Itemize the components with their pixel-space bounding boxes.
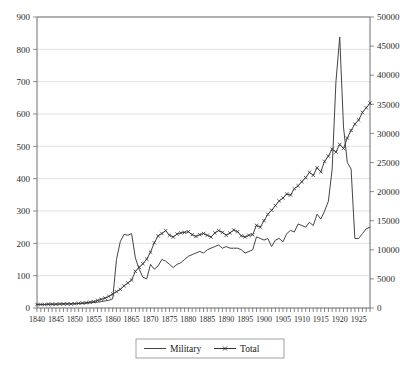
y-axis-left-tick-label: 500 [17,142,31,152]
x-axis-tick-label: 1900 [256,315,272,324]
x-axis-tick-label: 1885 [199,315,215,324]
x-axis-tick-label: 1870 [143,315,159,324]
chart-container: 0100200300400500600700800900050001000015… [0,0,419,368]
x-axis-tick-label: 1925 [351,315,367,324]
x-axis-tick-label: 1855 [86,315,102,324]
y-axis-left-tick-label: 100 [17,271,31,281]
y-axis-right-tick-label: 5000 [377,274,396,284]
y-axis-right-tick-label: 15000 [377,216,400,226]
x-axis-tick-label: 1845 [48,315,64,324]
x-axis-tick-label: 1915 [313,315,329,324]
y-axis-right-tick-label: 40000 [377,70,400,80]
y-axis-right-tick-label: 10000 [377,245,400,255]
y-axis-left-tick-label: 800 [17,45,31,55]
x-axis-tick-label: 1875 [161,315,177,324]
x-axis-tick-label: 1865 [124,315,140,324]
chart-legend: MilitaryTotal [136,339,284,358]
legend-label-military: Military [170,344,201,354]
line-chart: 0100200300400500600700800900050001000015… [0,0,419,368]
y-axis-left-tick-label: 600 [17,109,31,119]
y-axis-left-tick-label: 300 [17,206,31,216]
y-axis-right-tick-label: 0 [377,303,382,313]
y-axis-right-tick-label: 30000 [377,129,400,139]
y-axis-left-tick-label: 400 [17,174,31,184]
x-axis-tick-label: 1880 [180,315,196,324]
x-axis-tick-label: 1850 [67,315,83,324]
y-axis-left-tick-label: 0 [26,303,31,313]
y-axis-left-tick-label: 200 [17,239,31,249]
y-axis-right-tick-label: 45000 [377,41,400,51]
legend-label-total: Total [240,344,260,354]
y-axis-right-tick-label: 35000 [377,100,400,110]
y-axis-right-tick-label: 20000 [377,187,400,197]
x-axis-tick-label: 1840 [29,315,45,324]
y-axis-left-tick-label: 700 [17,77,31,87]
y-axis-right-tick-label: 50000 [377,12,400,22]
x-axis-tick-label: 1890 [218,315,234,324]
x-axis-tick-label: 1905 [275,315,291,324]
x-axis-tick-label: 1920 [332,315,348,324]
y-axis-right-tick-label: 25000 [377,158,400,168]
x-axis-tick-label: 1910 [294,315,310,324]
series-line-total [37,103,370,304]
y-axis-left-tick-label: 900 [17,12,31,22]
x-axis-tick-label: 1860 [105,315,121,324]
x-axis-tick-label: 1895 [237,315,253,324]
